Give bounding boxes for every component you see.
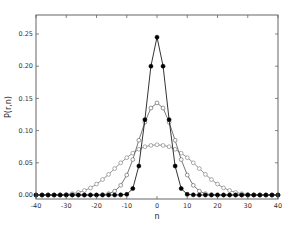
data-point	[70, 193, 74, 197]
x-tick-label: 30	[244, 202, 252, 210]
data-point	[155, 101, 159, 105]
data-point	[185, 192, 189, 196]
data-point	[107, 172, 111, 176]
x-tick-label: 0	[155, 202, 159, 210]
data-point	[234, 193, 238, 197]
data-point	[113, 193, 117, 197]
x-tick-label: 40	[274, 202, 282, 210]
data-point	[95, 182, 99, 186]
data-point	[228, 193, 232, 197]
data-point	[185, 156, 189, 160]
data-point	[125, 192, 129, 196]
x-tick-label: -10	[121, 202, 132, 210]
data-point	[173, 138, 177, 142]
data-point	[131, 187, 135, 191]
x-tick-label: -20	[91, 202, 102, 210]
data-point	[161, 106, 165, 110]
data-point	[149, 106, 153, 110]
data-point	[125, 173, 129, 177]
data-point	[137, 164, 141, 168]
data-point	[264, 193, 268, 197]
data-point	[149, 64, 153, 68]
data-point	[137, 138, 141, 142]
data-point	[179, 158, 183, 162]
data-point	[167, 145, 171, 149]
data-point	[119, 161, 123, 165]
data-point	[143, 145, 147, 149]
data-point	[161, 144, 165, 148]
data-point	[222, 193, 226, 197]
data-point	[89, 186, 93, 190]
y-tick-label: 0.25	[19, 30, 33, 38]
data-point	[209, 193, 213, 197]
y-tick-label: 0.10	[19, 127, 33, 135]
plot-frame	[36, 15, 278, 199]
data-point	[83, 189, 87, 193]
data-point	[137, 147, 141, 151]
data-point	[46, 193, 50, 197]
data-point	[204, 172, 208, 176]
data-point	[101, 178, 105, 182]
data-point	[240, 193, 244, 197]
data-point	[197, 189, 201, 193]
data-point	[197, 193, 201, 197]
data-point	[228, 189, 232, 193]
data-point	[40, 193, 44, 197]
data-point	[258, 193, 262, 197]
data-point	[155, 143, 159, 147]
data-point	[191, 161, 195, 165]
data-point	[203, 193, 207, 197]
data-point	[161, 64, 165, 68]
x-tick-label: -40	[31, 202, 42, 210]
data-point	[179, 187, 183, 191]
data-point	[119, 183, 123, 187]
data-point	[185, 173, 189, 177]
data-point	[125, 156, 129, 160]
data-point	[222, 186, 226, 190]
y-tick-label: 0.20	[19, 62, 33, 70]
x-tick-label: 20	[213, 202, 221, 210]
y-axis-label: P(r,n)	[4, 96, 13, 118]
data-point	[210, 178, 214, 182]
y-tick-label: 0.05	[19, 159, 33, 167]
data-point	[107, 193, 111, 197]
series-narrow	[34, 35, 280, 197]
data-point	[52, 193, 56, 197]
data-point	[167, 118, 171, 122]
ticks-layer: -40-30-20-100102030400.000.050.100.150.2…	[19, 15, 283, 210]
data-point	[270, 193, 274, 197]
series-wide	[34, 143, 280, 197]
data-point	[216, 182, 220, 186]
probability-chart: -40-30-20-100102030400.000.050.100.150.2…	[0, 0, 298, 225]
data-point	[76, 193, 80, 197]
x-tick-label: -30	[61, 202, 72, 210]
y-tick-label: 0.00	[19, 191, 33, 199]
data-point	[88, 193, 92, 197]
series-layer	[34, 35, 280, 197]
series-medium	[34, 101, 280, 197]
data-point	[113, 167, 117, 171]
data-point	[131, 158, 135, 162]
data-point	[191, 183, 195, 187]
x-axis-label: n	[154, 212, 159, 221]
data-point	[191, 193, 195, 197]
y-tick-label: 0.15	[19, 95, 33, 103]
data-point	[149, 144, 153, 148]
data-point	[82, 193, 86, 197]
data-point	[155, 35, 159, 39]
data-point	[119, 193, 123, 197]
data-point	[197, 167, 201, 171]
data-point	[252, 193, 256, 197]
x-tick-label: 10	[183, 202, 191, 210]
data-point	[58, 193, 62, 197]
data-point	[173, 147, 177, 151]
data-point	[101, 193, 105, 197]
data-point	[173, 164, 177, 168]
data-point	[143, 118, 147, 122]
data-point	[113, 189, 117, 193]
